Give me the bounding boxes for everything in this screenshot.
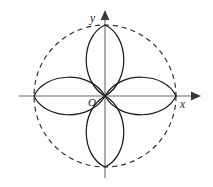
figure-canvas: y x O [0,0,213,187]
y-axis-label: y [89,12,96,25]
x-axis-label: x [179,98,186,110]
y-axis-arrowhead [101,10,110,20]
x-axis-arrowhead [191,92,201,101]
origin-label: O [88,96,96,108]
rose-curve-plot: y x O [0,0,213,187]
